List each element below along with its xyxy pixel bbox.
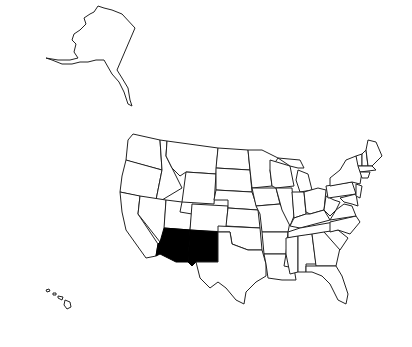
us-map xyxy=(0,0,412,347)
state-hawaii-kauai[interactable] xyxy=(46,289,50,292)
state-iowa[interactable] xyxy=(252,188,280,206)
state-new-mexico[interactable] xyxy=(188,230,218,266)
hawaii-inset xyxy=(46,289,71,309)
state-arkansas[interactable] xyxy=(262,232,288,254)
state-wyoming[interactable] xyxy=(182,172,216,204)
state-new-jersey[interactable] xyxy=(356,184,362,198)
state-utah[interactable] xyxy=(164,200,192,230)
state-north-dakota[interactable] xyxy=(216,148,250,170)
contiguous-us xyxy=(120,134,382,304)
state-florida[interactable] xyxy=(306,266,348,304)
state-connecticut-ri[interactable] xyxy=(360,172,370,178)
state-south-dakota[interactable] xyxy=(216,168,252,192)
state-hawaii-oahu[interactable] xyxy=(53,293,56,295)
state-maine[interactable] xyxy=(366,140,382,166)
state-hawaii-maui[interactable] xyxy=(58,296,63,300)
state-massachusetts[interactable] xyxy=(358,166,376,172)
alaska-inset xyxy=(46,6,135,106)
state-alaska[interactable] xyxy=(46,6,135,106)
state-hawaii-big-island[interactable] xyxy=(64,300,71,309)
state-kansas[interactable] xyxy=(226,208,260,228)
